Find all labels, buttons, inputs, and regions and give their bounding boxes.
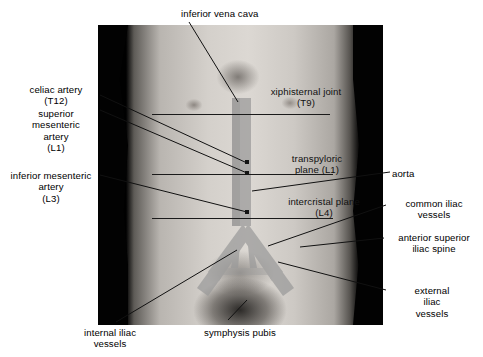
label-external-iliac-vessels: external iliac vessels [388, 285, 476, 319]
label-superior-mesenteric-artery: superior mesenteric artery (L1) [12, 108, 100, 154]
label-transpyloric-plane: transpyloric plane (L1) [275, 153, 359, 176]
label-celiac-artery: celiac artery (T12) [12, 84, 100, 107]
label-intercristal-plane: intercristal plane (L4) [274, 196, 374, 219]
annotation-layer: inferior vena cava celiac artery (T12) s… [0, 0, 483, 357]
label-xiphisternal-joint: xiphisternal joint (T9) [256, 86, 356, 109]
label-inferior-mesenteric-artery: inferior mesenteric artery (L3) [2, 170, 100, 204]
label-inferior-vena-cava: inferior vena cava [181, 8, 259, 19]
label-symphysis-pubis: symphysis pubis [185, 327, 295, 338]
anatomy-figure: inferior vena cava celiac artery (T12) s… [0, 0, 483, 357]
label-anterior-superior-iliac-spine: anterior superior iliac spine [386, 232, 482, 255]
label-common-iliac-vessels: common iliac vessels [388, 198, 480, 221]
label-internal-iliac-vessels: internal iliac vessels [64, 327, 156, 350]
label-aorta: aorta [392, 168, 480, 179]
